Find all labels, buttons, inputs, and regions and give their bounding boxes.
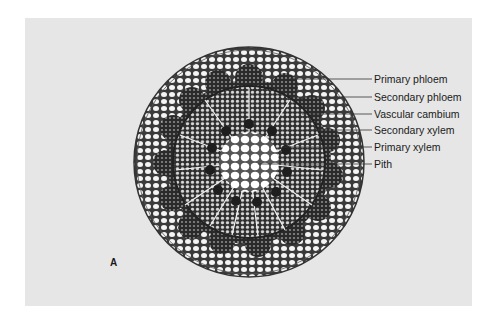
label-vascular-cambium: Vascular cambium xyxy=(374,108,460,120)
figure-letter: A xyxy=(110,257,117,268)
label-pith: Pith xyxy=(374,158,392,170)
pith xyxy=(219,132,279,192)
label-secondary-phloem: Secondary phloem xyxy=(374,91,462,103)
stem-cross-section-illustration xyxy=(0,0,495,315)
label-primary-phloem: Primary phloem xyxy=(374,73,448,85)
label-secondary-xylem: Secondary xylem xyxy=(374,124,455,136)
label-primary-xylem: Primary xylem xyxy=(374,141,441,153)
